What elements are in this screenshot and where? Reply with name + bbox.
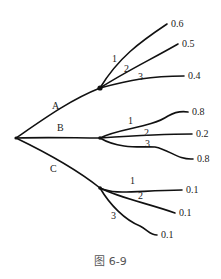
- sub-branch-label: 3: [111, 210, 116, 221]
- sub-branch-label: 2: [144, 127, 149, 138]
- figure-caption: 图 6-9: [0, 252, 221, 268]
- branch-label-c: C: [50, 163, 57, 174]
- edge-c: [16, 138, 100, 188]
- sub-branch-label: 1: [128, 115, 133, 126]
- sub-branch-label: 3: [138, 71, 143, 82]
- sub-branch-label: 3: [145, 138, 150, 149]
- leaf-probability: 0.6: [171, 18, 184, 29]
- node-b: [98, 136, 102, 140]
- sub-branch-label: 1: [112, 53, 117, 64]
- sub-branch-label: 2: [124, 63, 129, 74]
- branch-label-b: B: [57, 122, 64, 133]
- sub-branch-label: 1: [130, 175, 135, 186]
- tree-edges: [16, 24, 193, 235]
- branch-label-a: A: [52, 100, 60, 111]
- leaf-probability: 0.1: [186, 184, 199, 195]
- sub-branch-label: 2: [138, 190, 143, 201]
- tree-diagram: A10.620.530.4B10.820.230.8C10.120.130.1: [0, 0, 221, 279]
- leaf-probability: 0.2: [196, 128, 209, 139]
- node-a: [97, 85, 102, 90]
- leaf-probability: 0.1: [161, 229, 174, 240]
- leaf-probability: 0.5: [182, 38, 195, 49]
- root-node: [14, 136, 17, 139]
- leaf-probability: 0.8: [192, 106, 205, 117]
- leaf-probability: 0.1: [179, 207, 192, 218]
- edge-c-3: [100, 188, 157, 235]
- node-c: [98, 186, 102, 190]
- leaf-probability: 0.4: [188, 70, 201, 81]
- leaf-probability: 0.8: [197, 153, 210, 164]
